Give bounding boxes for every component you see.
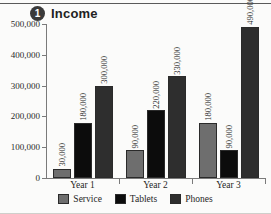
category-separator <box>119 178 120 184</box>
bar-phones-year-3[interactable]: 490,000 <box>241 27 259 178</box>
bar-value-label: 180,000 <box>78 93 88 121</box>
y-axis-label: 400,000 <box>11 50 40 60</box>
category-label-year-1: Year 1 <box>70 180 95 190</box>
legend-item-tablets[interactable]: Tablets <box>115 194 157 204</box>
y-axis-label: 100,000 <box>11 142 40 152</box>
bar-value-label: 90,000 <box>130 125 140 148</box>
bar-service-year-3[interactable]: 180,000 <box>199 123 217 178</box>
bar-value-label: 490,000 <box>245 0 255 25</box>
bar-service-year-2[interactable]: 90,000 <box>126 150 144 178</box>
y-axis-label: 0 <box>36 173 41 183</box>
y-axis-label: 200,000 <box>11 111 40 121</box>
bar-value-label: 180,000 <box>203 93 213 121</box>
legend-item-phones[interactable]: Phones <box>170 194 212 204</box>
legend-swatch-tablets <box>115 194 126 204</box>
bar-phones-year-2[interactable]: 330,000 <box>168 76 186 178</box>
y-axis-label: 300,000 <box>11 81 40 91</box>
chart-title-row: 1 Income <box>30 5 98 22</box>
legend-label-phones: Phones <box>185 194 212 204</box>
legend-label-service: Service <box>73 194 102 204</box>
bar-group-container: 30,000180,000300,00090,000220,000330,000… <box>46 24 265 178</box>
bar-value-label: 300,000 <box>99 56 109 84</box>
category-label-year-2: Year 2 <box>143 180 168 190</box>
y-axis-tick <box>42 178 47 179</box>
chart-figure: 1 Income 0100,000200,000300,000400,00050… <box>0 0 271 214</box>
bar-phones-year-1[interactable]: 300,000 <box>95 86 113 178</box>
bottom-divider <box>0 213 271 214</box>
top-divider <box>0 3 271 4</box>
bar-tablets-year-1[interactable]: 180,000 <box>74 123 92 178</box>
y-axis-label: 500,000 <box>11 19 40 29</box>
legend-swatch-service <box>58 194 69 204</box>
bar-value-label: 30,000 <box>57 143 67 166</box>
legend-label-tablets: Tablets <box>130 194 157 204</box>
legend-swatch-phones <box>170 194 181 204</box>
bar-value-label: 330,000 <box>172 47 182 75</box>
bar-value-label: 90,000 <box>224 125 234 148</box>
category-separator <box>192 178 193 184</box>
bar-value-label: 220,000 <box>151 81 161 109</box>
bar-service-year-1[interactable]: 30,000 <box>53 169 71 178</box>
page-title: Income <box>51 6 98 21</box>
category-label-year-3: Year 3 <box>216 180 241 190</box>
category-separator <box>265 178 266 184</box>
x-axis-line <box>46 178 265 179</box>
legend-item-service[interactable]: Service <box>58 194 102 204</box>
chart-legend: ServiceTabletsPhones <box>0 194 271 204</box>
plot-area: 0100,000200,000300,000400,000500,000 30,… <box>46 24 265 178</box>
bar-tablets-year-3[interactable]: 90,000 <box>220 150 238 178</box>
bar-tablets-year-2[interactable]: 220,000 <box>147 110 165 178</box>
